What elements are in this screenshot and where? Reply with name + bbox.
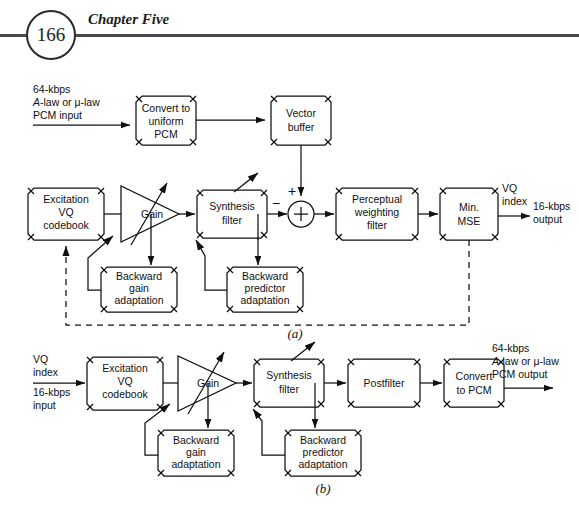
panel-a-synthesis-adapt-arrow	[234, 173, 258, 192]
pcm-output-alaw-italic: A	[491, 355, 499, 367]
excitation-vq-codebook-a-line3: codebook	[43, 219, 89, 231]
panel-a-block-backward-gain-adaptation: Backward gain adaptation	[101, 267, 177, 312]
excitation-vq-codebook-b-line2: VQ	[117, 375, 132, 387]
panel-a-caption: (a)	[287, 326, 302, 341]
panel-b-bpa-line1: Backward	[300, 434, 346, 446]
panel-a-synthesis-filter-line2: filter	[222, 214, 242, 226]
panel-b-bga-line3: adaptation	[171, 458, 220, 470]
panel-a-synthesis-filter-line1: Synthesis	[209, 200, 255, 212]
panel-a-block-summing-junction: + −	[272, 183, 314, 227]
panel-b-vq-index-line2: index	[33, 366, 59, 378]
min-mse-line1: Min.	[459, 201, 479, 213]
panel-a-bga-line1: Backward	[116, 270, 162, 282]
panel-b-synthesis-adapt-arrow	[291, 342, 315, 361]
panel-b-synthesis-filter-line1: Synthesis	[266, 369, 312, 381]
panel-b-block-synthesis-filter: Synthesis filter	[254, 342, 324, 407]
panel-a-output-labels: VQ index 16-kbps output	[502, 182, 570, 225]
panel-a-block-excitation-vq-codebook: Excitation VQ codebook	[28, 188, 104, 240]
panel-a-block-perceptual-weighting-filter: Perceptual weighting filter	[336, 188, 418, 240]
vector-buffer-line2: buffer	[288, 121, 315, 133]
panel-a-bpa-line1: Backward	[242, 270, 288, 282]
excitation-vq-codebook-b-line1: Excitation	[102, 362, 148, 374]
panel-a-output-line2: output	[533, 213, 562, 225]
pcm-output-line2: A-law or μ-law	[491, 355, 559, 367]
panel-a-wire-bpa-to-synthesis	[196, 240, 227, 290]
panel-a-block-vector-buffer: Vector buffer	[271, 96, 331, 145]
panel-a-output-line1: 16-kbps	[533, 200, 570, 212]
convert-to-pcm-line1: Convert	[456, 370, 493, 382]
excitation-vq-codebook-a-line1: Excitation	[43, 193, 89, 205]
convert-to-pcm-line2: to PCM	[456, 384, 491, 396]
panel-b-block-excitation-vq-codebook: Excitation VQ codebook	[87, 357, 163, 410]
panel-b-bpa-line3: adaptation	[298, 458, 347, 470]
min-mse-line2: MSE	[458, 215, 481, 227]
excitation-vq-codebook-a-line2: VQ	[58, 206, 73, 218]
pcm-output-line1: 64-kbps	[492, 342, 529, 354]
convert-to-uniform-pcm-line3: PCM	[154, 128, 177, 140]
pcm-output-line3: PCM output	[492, 368, 548, 380]
pcm-input-line3: PCM input	[33, 109, 82, 121]
panel-a-pcm-input-label: 64-kbps A-law or μ-law PCM input	[32, 83, 100, 121]
pcm-input-line1: 64-kbps	[33, 83, 70, 95]
panel-b-input-labels: VQ index 16-kbps input	[33, 353, 70, 411]
panel-a-bpa-line2: predictor	[245, 282, 286, 294]
panel-b-caption: (b)	[315, 481, 330, 496]
panel-b-bpa-line2: predictor	[303, 446, 344, 458]
pcm-input-line2: A-law or μ-law	[32, 96, 100, 108]
panel-b-bga-line2: gain	[186, 446, 206, 458]
figure-block-diagram: 64-kbps A-law or μ-law PCM input Convert…	[0, 0, 579, 511]
panel-b-input-line2: input	[33, 399, 56, 411]
panel-b-bga-line1: Backward	[173, 434, 219, 446]
panel-a-block-synthesis-filter: Synthesis filter	[197, 173, 267, 238]
panel-b-block-backward-gain-adaptation: Backward gain adaptation	[158, 430, 234, 476]
book-page: 166 Chapter Five 64-kbps A-law or μ-law …	[0, 0, 579, 511]
panel-a-bpa-line3: adaptation	[240, 294, 289, 306]
convert-to-uniform-pcm-line2: uniform	[148, 115, 183, 127]
pcm-input-line2-rest: -law or μ-law	[40, 96, 100, 108]
perceptual-weighting-filter-line1: Perceptual	[352, 193, 402, 205]
panel-b-block-gain: Gain	[178, 352, 236, 414]
convert-to-uniform-pcm-line1: Convert to	[142, 102, 191, 114]
panel-a-block-backward-predictor-adaptation: Backward predictor adaptation	[227, 267, 303, 312]
panel-a-block-convert-to-uniform-pcm: Convert to uniform PCM	[136, 96, 196, 145]
panel-a-bga-line2: gain	[129, 282, 149, 294]
perceptual-weighting-filter-line3: filter	[367, 219, 387, 231]
panel-b-block-backward-predictor-adaptation: Backward predictor adaptation	[285, 430, 361, 476]
panel-b-pcm-output-label: 64-kbps A-law or μ-law PCM output	[491, 342, 559, 380]
panel-b-vq-index-line1: VQ	[33, 353, 48, 365]
panel-a-bga-line3: adaptation	[114, 294, 163, 306]
excitation-vq-codebook-b-line3: codebook	[102, 388, 148, 400]
pcm-output-line2-rest: -law or μ-law	[499, 355, 559, 367]
perceptual-weighting-filter-line2: weighting	[354, 206, 400, 218]
pcm-input-alaw-italic: A	[32, 96, 40, 108]
panel-a-adder-plus-sign: +	[288, 183, 296, 199]
panel-a-vq-index-line1: VQ	[502, 182, 517, 194]
panel-a-vq-index-line2: index	[502, 195, 528, 207]
panel-b-wire-bpa-to-synthesis	[253, 409, 285, 455]
postfilter-label: Postfilter	[364, 377, 405, 389]
panel-b-synthesis-filter-line2: filter	[279, 383, 299, 395]
panel-a-gain-label: Gain	[141, 208, 163, 220]
panel-a-adder-minus-sign: −	[272, 195, 280, 211]
panel-a-block-gain: Gain	[121, 183, 179, 245]
panel-a-block-min-mse: Min. MSE	[440, 188, 498, 240]
panel-b-input-line1: 16-kbps	[33, 386, 70, 398]
vector-buffer-line1: Vector	[286, 107, 316, 119]
panel-b-block-postfilter: Postfilter	[348, 359, 420, 407]
